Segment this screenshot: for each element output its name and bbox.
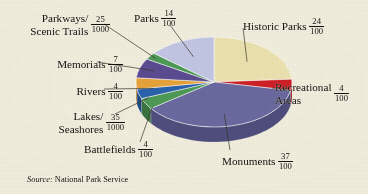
slice-label-historic-parks-text: Historic Parks: [243, 20, 307, 32]
figure-canvas: Parkways/ Scenic Trails 251000 Memorials…: [0, 0, 368, 194]
slice-label-parks-text: Parks: [134, 12, 159, 24]
slice-fraction-monuments: 37100: [278, 152, 293, 171]
slice-label-recreational-line2: Areas: [275, 94, 301, 106]
pie-slice-historic-parks: [214, 37, 292, 82]
slice-label-parkways-line1: Parkways/: [42, 12, 89, 24]
slice-label-lakes-line2: Seashores: [59, 123, 104, 135]
slice-label-battlefields-text: Battlefields: [84, 143, 136, 155]
slice-fraction-parks: 14100: [161, 9, 176, 28]
slice-fraction-recreational: 4100: [334, 84, 349, 103]
slice-label-monuments-text: Monuments: [222, 155, 275, 167]
slice-fraction-lakes: 351000: [106, 113, 125, 132]
slice-label-memorials-text: Memorials: [57, 58, 105, 70]
slice-fraction-parkways: 251000: [91, 15, 110, 34]
slice-fraction-rivers: 4100: [108, 82, 123, 101]
slice-fraction-historic-parks: 24100: [309, 17, 324, 36]
slice-label-battlefields: Battlefields4100: [48, 140, 153, 159]
source-note: Source: National Park Service: [27, 175, 128, 184]
source-text: National Park Service: [55, 175, 129, 184]
slice-label-rivers-text: Rivers: [76, 85, 105, 97]
slice-fraction-battlefields: 4100: [138, 140, 153, 159]
slice-label-lakes-seashores: Lakes/ Seashores 351000: [10, 110, 125, 135]
slice-label-recreational-areas: Recreational Areas 4100: [275, 81, 349, 106]
source-prefix: Source:: [27, 175, 53, 184]
slice-label-parkways-line2: Scenic Trails: [30, 25, 88, 37]
slice-label-parkways-scenic-trails: Parkways/ Scenic Trails 251000: [2, 12, 110, 37]
slice-fraction-memorials: 7100: [108, 55, 123, 74]
pie-top-face: [136, 37, 292, 127]
slice-label-memorials: Memorials7100: [18, 55, 123, 74]
slice-label-monuments: Monuments37100: [222, 152, 293, 171]
slice-label-lakes-line1: Lakes/: [73, 110, 103, 122]
slice-label-parks: Parks14100: [134, 9, 176, 28]
slice-label-rivers: Rivers4100: [28, 82, 123, 101]
leader-line-parkways-scenic-trails: [104, 24, 155, 58]
slice-label-historic-parks: Historic Parks24100: [243, 17, 324, 36]
slice-label-recreational-line1: Recreational: [275, 81, 332, 93]
